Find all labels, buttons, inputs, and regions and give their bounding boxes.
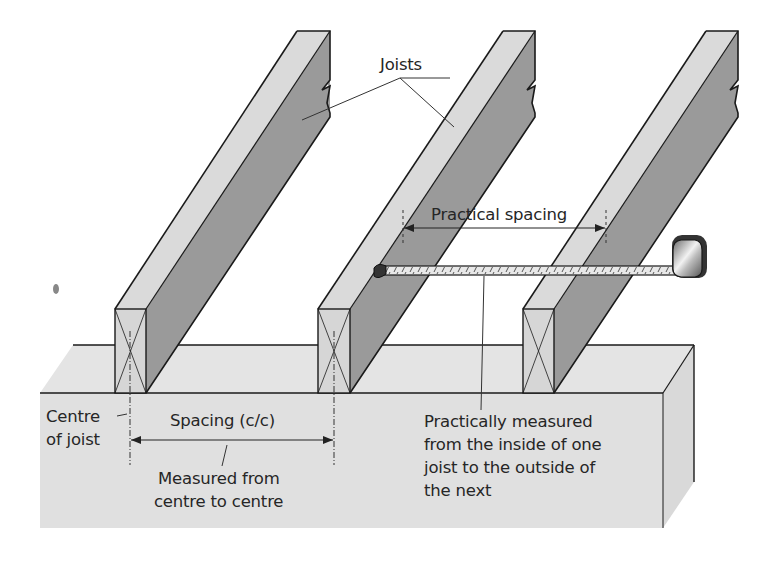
joist-spacing-diagram: Joists Practical spacing Centre of joist… [0,0,767,561]
centre-of-joist-line2: of joist [46,428,100,451]
practical-note-line1: Practically measured [424,410,602,433]
practical-note-line4: the next [424,479,602,502]
centre-of-joist-label: Centre of joist [46,405,100,451]
joists-label: Joists [380,53,422,76]
spacing-cc-label: Spacing (c/c) [170,409,275,432]
centre-of-joist-line1: Centre [46,405,100,428]
practical-spacing-label: Practical spacing [431,203,567,226]
measured-cc-line1: Measured from [154,467,283,490]
practical-note-label: Practically measured from the inside of … [424,410,602,502]
speck-mark [53,284,59,294]
practical-note-line3: joist to the outside of [424,456,602,479]
practical-note-line2: from the inside of one [424,433,602,456]
measured-cc-label: Measured from centre to centre [154,467,283,513]
diagram-canvas [0,0,767,561]
tape-case-icon [673,240,702,277]
joist-1 [115,31,330,393]
measured-cc-line2: centre to centre [154,490,283,513]
tape-hook-icon [374,264,386,277]
